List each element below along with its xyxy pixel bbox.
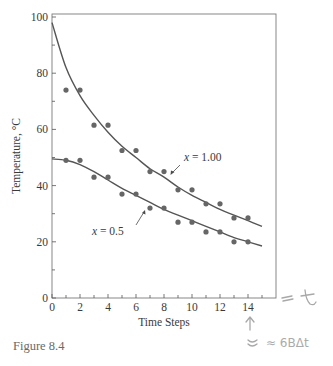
hand-approx-icon (248, 340, 257, 346)
y-tick-label: 60 (37, 123, 49, 135)
data-point (77, 87, 82, 92)
data-point (105, 123, 110, 128)
annotation-arrow-lower (136, 212, 144, 225)
hand-equals-icon (282, 296, 293, 301)
chart: 02468101214020406080100 Time Steps Tempe… (0, 0, 333, 366)
y-tick-label: 40 (37, 180, 49, 192)
data-point (245, 215, 250, 220)
data-point (133, 191, 138, 196)
data-point (245, 239, 250, 244)
data-point (161, 169, 166, 174)
annotation-label-lower: x = 0.5 (91, 225, 124, 237)
x-tick-label: 4 (105, 301, 111, 313)
plot-frame (52, 14, 276, 298)
handwritten-notes: ≈ 6BΔt (246, 290, 316, 350)
data-point (147, 169, 152, 174)
y-tick-label: 20 (37, 236, 49, 248)
x-tick-label: 2 (77, 301, 83, 313)
curves (52, 23, 262, 246)
data-point (217, 229, 222, 234)
annotation-label-upper: x = 1.00 (183, 151, 222, 163)
x-tick-label: 8 (161, 301, 167, 313)
y-tick-label: 80 (37, 67, 49, 79)
x-tick-label: 6 (133, 301, 139, 313)
y-axis-title: Temperature, °C (10, 118, 23, 194)
data-point (231, 215, 236, 220)
data-point (175, 220, 180, 225)
x-tick-label: 0 (49, 301, 55, 313)
data-point (217, 201, 222, 206)
y-tick-label: 0 (42, 292, 48, 304)
data-point (189, 220, 194, 225)
x-axis-title: Time Steps (138, 316, 190, 329)
data-point (63, 87, 68, 92)
data-point (133, 148, 138, 153)
x-tick-label: 10 (186, 301, 198, 313)
data-point (147, 205, 152, 210)
figure-caption: Figure 8.4 (13, 339, 64, 354)
data-point (161, 205, 166, 210)
data-point (77, 158, 82, 163)
annotation-x-0-5: x = 0.5 (91, 210, 146, 237)
hand-up-arrow-icon (246, 317, 254, 330)
data-point (203, 229, 208, 234)
data-point (105, 175, 110, 180)
x-tick-label: 12 (214, 301, 226, 313)
hand-t-icon (301, 290, 316, 305)
data-point (63, 158, 68, 163)
hand-note-text: ≈ 6BΔt (266, 336, 309, 350)
data-point (175, 187, 180, 192)
data-point (189, 187, 194, 192)
series-curve-3 (52, 159, 262, 246)
annotation-x-1-00: x = 1.00 (171, 151, 222, 175)
series-curve-1 (52, 23, 262, 227)
plot-border (52, 14, 276, 298)
data-point (231, 239, 236, 244)
y-tick-label: 100 (31, 11, 49, 23)
data-point (91, 175, 96, 180)
data-point (91, 123, 96, 128)
data-point (203, 201, 208, 206)
data-point (119, 191, 124, 196)
data-point (119, 148, 124, 153)
x-tick-label: 14 (242, 301, 254, 313)
